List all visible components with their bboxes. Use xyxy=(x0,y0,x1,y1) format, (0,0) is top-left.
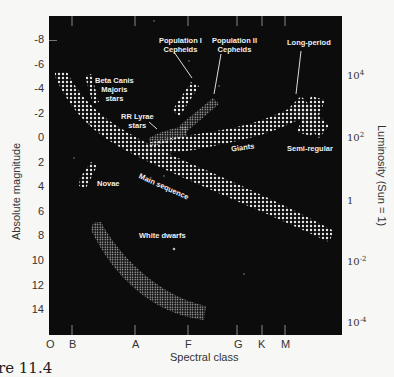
novae-cluster xyxy=(79,162,97,188)
ytick: -8 xyxy=(20,33,44,45)
y2tick: 10-4 xyxy=(347,316,367,328)
xtick: M xyxy=(281,338,290,350)
ytick: 4 xyxy=(20,180,44,192)
ytick: 0 xyxy=(20,131,44,143)
label-rr-lyrae: RR Lyraestars xyxy=(121,112,154,130)
ytick: 10 xyxy=(20,254,44,266)
y-axis-title: Absolute magnitude xyxy=(10,143,22,240)
y2-axis-title: Luminosity (Sun = 1) xyxy=(376,125,388,226)
star-regions-graphic xyxy=(49,16,342,335)
xtick: K xyxy=(258,338,265,350)
label-pop1-cepheids: Population ICepheids xyxy=(159,36,202,54)
ytick: -4 xyxy=(20,82,44,94)
ytick: -6 xyxy=(20,58,44,70)
y2tick: 10-2 xyxy=(347,255,367,267)
pop1-cepheids-band xyxy=(172,82,199,116)
y2tick: 1 xyxy=(347,194,353,206)
ytick: -2 xyxy=(20,107,44,119)
label-long-period: Long-period xyxy=(287,38,331,47)
ytick: 14 xyxy=(20,303,44,315)
xtick: O xyxy=(46,338,55,350)
label-white-dwarfs: White dwarfs xyxy=(139,231,186,240)
ytick: 2 xyxy=(20,156,44,168)
xtick: F xyxy=(185,338,192,350)
label-novae: Novae xyxy=(97,179,120,188)
x-axis-title: Spectral class xyxy=(170,351,238,363)
giants-band xyxy=(144,102,307,156)
figure-caption: re 11.4 xyxy=(0,359,52,377)
ytick: 6 xyxy=(20,205,44,217)
xtick: B xyxy=(69,338,76,350)
label-semi-regular: Semi-regular xyxy=(287,144,333,153)
hr-diagram-plot: Beta CanisMajorisstars Population ICephe… xyxy=(49,16,342,335)
ytick: 8 xyxy=(20,229,44,241)
y2tick: 102 xyxy=(347,131,364,143)
xtick: A xyxy=(132,338,139,350)
y2tick: 104 xyxy=(347,69,364,81)
xtick: G xyxy=(234,338,243,350)
label-beta-canis: Beta CanisMajorisstars xyxy=(95,76,134,103)
label-pop2-cepheids: Population IICepheids xyxy=(212,36,257,54)
ytick: 12 xyxy=(20,279,44,291)
